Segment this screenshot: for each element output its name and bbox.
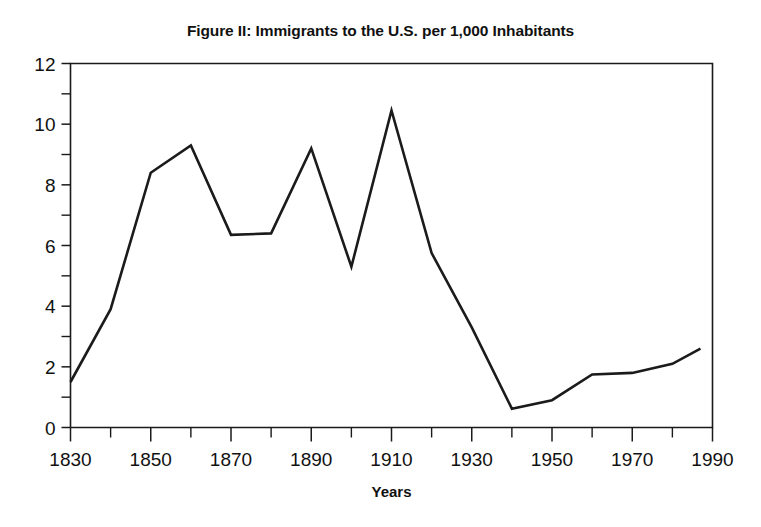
x-tick-label: 1870 — [210, 449, 252, 470]
y-tick-label: 6 — [45, 236, 56, 257]
x-tick-label: 1890 — [290, 449, 332, 470]
x-tick-label: 1970 — [611, 449, 653, 470]
figure-container: Figure II: Immigrants to the U.S. per 1,… — [0, 0, 761, 527]
x-tick-label: 1910 — [370, 449, 412, 470]
x-tick-label: 1850 — [130, 449, 172, 470]
data-series — [71, 111, 701, 409]
line-chart: 024681012 183018501870189019101930195019… — [0, 0, 761, 527]
y-axis-ticks: 024681012 — [34, 54, 70, 439]
x-axis-label: Years — [71, 483, 713, 500]
y-tick-label: 2 — [45, 357, 56, 378]
y-tick-label: 0 — [45, 418, 56, 439]
x-tick-label: 1990 — [691, 449, 733, 470]
series-line-immigrants — [71, 111, 701, 409]
x-tick-label: 1930 — [451, 449, 493, 470]
y-tick-label: 4 — [45, 296, 56, 317]
y-tick-label: 10 — [34, 114, 55, 135]
y-tick-label: 12 — [34, 54, 55, 75]
x-tick-label: 1950 — [531, 449, 573, 470]
y-tick-label: 8 — [45, 175, 56, 196]
x-tick-label: 1830 — [49, 449, 91, 470]
x-axis-ticks: 183018501870189019101930195019701990 — [49, 428, 733, 470]
